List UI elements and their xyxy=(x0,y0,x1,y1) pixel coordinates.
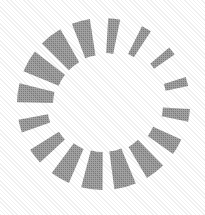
spinner-segment-10 xyxy=(30,132,65,163)
spinner-segment-5 xyxy=(148,127,182,154)
spinner-segment-3 xyxy=(164,77,188,91)
spinner-segment-2 xyxy=(150,48,174,69)
spinner-segment-11 xyxy=(18,114,50,132)
spinner-segment-group xyxy=(17,18,190,190)
spinner-segment-6 xyxy=(129,140,164,178)
spinner-segment-4 xyxy=(162,107,190,121)
spinner-segment-0 xyxy=(106,18,120,54)
loading-spinner-icon xyxy=(0,0,205,215)
spinner-segment-12 xyxy=(17,83,54,103)
spinner-canvas xyxy=(0,0,205,215)
spinner-segment-9 xyxy=(52,143,84,183)
spinner-segment-1 xyxy=(128,26,151,57)
spinner-segment-8 xyxy=(81,150,103,190)
spinner-segment-7 xyxy=(109,148,135,189)
spinner-segment-15 xyxy=(72,19,96,58)
